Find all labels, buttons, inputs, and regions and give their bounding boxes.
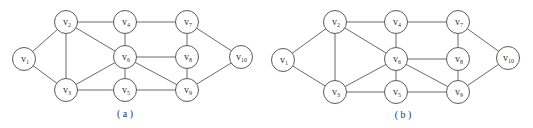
caption-a: ( a ) [117,108,133,120]
node-v7: v7 [447,11,470,34]
node-v3: v3 [324,81,347,104]
node-v1: v1 [272,49,295,72]
node-v7: v7 [176,11,199,34]
node-v5: v5 [385,81,408,104]
graph-a: v1v2v3v4v5v6v7v8v9v10 ( a ) [13,11,253,121]
node-v4: v4 [385,11,408,34]
nodes: v1v2v3v4v5v6v7v8v9v10 [272,11,520,104]
node-v8: v8 [176,46,199,69]
node-v3: v3 [55,79,78,102]
node-v10: v10 [497,47,520,70]
node-v8: v8 [447,48,470,71]
graph-diagram: v1v2v3v4v5v6v7v8v9v10 ( a ) v1v2v3v4v5v6… [0,0,533,128]
nodes: v1v2v3v4v5v6v7v8v9v10 [13,11,253,102]
node-v10: v10 [230,46,253,69]
graph-b: v1v2v3v4v5v6v7v8v9v10 ( b ) [272,11,520,122]
node-v6: v6 [385,48,408,71]
node-v4: v4 [114,11,137,34]
node-v2: v2 [324,11,347,34]
node-v6: v6 [114,46,137,69]
node-v2: v2 [55,11,78,34]
node-v5: v5 [114,79,137,102]
node-v1: v1 [13,48,36,71]
caption-b: ( b ) [395,109,412,121]
node-v9: v9 [176,79,199,102]
node-v9: v9 [447,81,470,104]
